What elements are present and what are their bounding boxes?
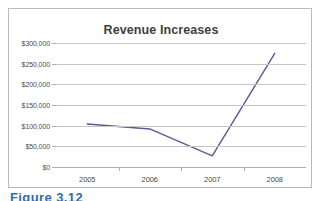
x-axis-label: 2008 xyxy=(267,175,283,184)
y-axis-label: $50,000 xyxy=(25,143,50,150)
gridline xyxy=(56,146,306,147)
y-axis-tick-mark xyxy=(52,126,56,127)
y-axis-label: $150,000 xyxy=(22,102,50,109)
y-axis-label: $100,000 xyxy=(22,122,50,129)
chart-frame: Revenue Increases $0$50,000$100,000$150,… xyxy=(8,8,312,188)
x-axis-tick-mark xyxy=(244,167,245,171)
y-axis-label: $250,000 xyxy=(22,60,50,67)
figure-root: Revenue Increases $0$50,000$100,000$150,… xyxy=(0,0,321,201)
x-axis-tick-mark xyxy=(181,167,182,171)
x-axis-label: 2006 xyxy=(142,175,158,184)
y-axis-tick-mark xyxy=(52,43,56,44)
plot-area: $0$50,000$100,000$150,000$200,000$250,00… xyxy=(56,43,306,167)
gridline xyxy=(56,64,306,65)
y-axis-tick-mark xyxy=(52,105,56,106)
x-axis-tick-mark xyxy=(119,167,120,171)
gridline xyxy=(56,126,306,127)
chart-title: Revenue Increases xyxy=(9,23,313,37)
figure-caption: Figure 3.12 xyxy=(10,191,83,201)
y-axis-tick-mark xyxy=(52,167,56,168)
gridline xyxy=(56,105,306,106)
y-axis-tick-mark xyxy=(52,64,56,65)
y-axis-tick-mark xyxy=(52,146,56,147)
x-axis-label: 2005 xyxy=(79,175,95,184)
y-axis-label: $200,000 xyxy=(22,81,50,88)
gridline xyxy=(56,43,306,44)
y-axis-label: $300,000 xyxy=(22,40,50,47)
x-axis-label: 2007 xyxy=(204,175,220,184)
y-axis-tick-mark xyxy=(52,84,56,85)
gridline xyxy=(56,84,306,85)
y-axis-label: $0 xyxy=(42,164,50,171)
